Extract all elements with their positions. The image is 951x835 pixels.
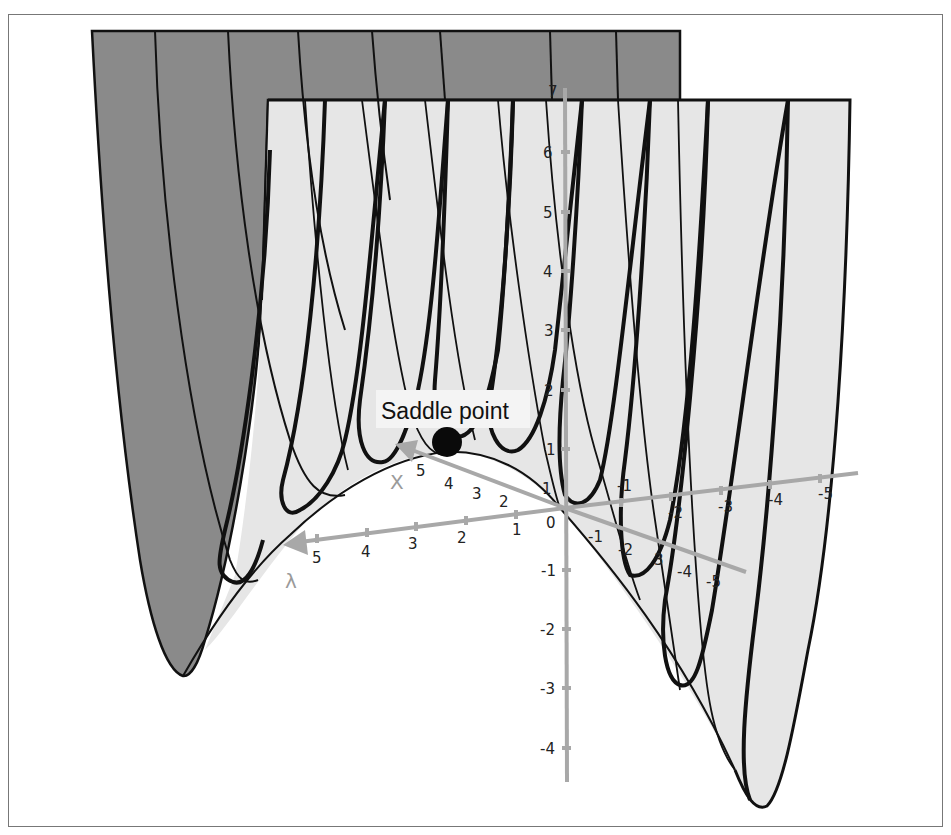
x-tick-neg2: -2 <box>668 504 683 522</box>
saddle-surface-figure: 7 6 5 4 3 2 1 -1 -2 -3 -4 5 4 3 <box>0 0 951 835</box>
v-tick-5: 5 <box>543 204 553 222</box>
lambda-tick-neg5: -5 <box>706 573 721 591</box>
lambda-tick-neg1: -1 <box>588 528 603 546</box>
v-tick-7: 7 <box>548 83 558 101</box>
v-tick-3: 3 <box>544 322 554 340</box>
x-tick-neg3: -3 <box>718 498 733 516</box>
lambda-tick-4: 4 <box>361 543 371 561</box>
v-tick-1: 1 <box>546 441 556 459</box>
x-tick-5: 5 <box>416 462 426 480</box>
lambda-tick-neg3: 3 <box>654 551 664 569</box>
x-tick-neg5: -5 <box>818 485 833 503</box>
lambda-tick-neg2: -2 <box>618 541 633 559</box>
x-tick-4: 4 <box>444 475 454 493</box>
lambda-tick-3: 3 <box>408 535 418 553</box>
v-tick-4: 4 <box>543 263 553 281</box>
v-tick-6: 6 <box>543 144 553 162</box>
surface-plot: 7 6 5 4 3 2 1 -1 -2 -3 -4 5 4 3 <box>0 0 951 835</box>
lambda-tick-neg4: -4 <box>677 563 692 581</box>
x-tick-neg1: -1 <box>617 477 632 495</box>
lambda-tick-1: 1 <box>512 521 522 539</box>
v-tick-neg1: -1 <box>541 562 556 580</box>
lambda-tick-2: 2 <box>457 529 467 547</box>
v-tick-neg3: -3 <box>540 680 555 698</box>
front-panel <box>205 100 850 807</box>
lambda-axis-label: λ <box>285 569 297 593</box>
saddle-point-label: Saddle point <box>381 398 509 424</box>
v-tick-neg2: -2 <box>540 621 555 639</box>
x-tick-1: 1 <box>542 480 552 498</box>
x-tick-3: 3 <box>472 485 482 503</box>
origin-label: 0 <box>546 514 556 532</box>
x-tick-2: 2 <box>499 493 509 511</box>
saddle-point-dot <box>432 427 462 457</box>
x-tick-neg4: -4 <box>768 491 783 509</box>
x-axis-label: X <box>390 470 404 494</box>
lambda-tick-5: 5 <box>312 549 322 567</box>
v-tick-neg4: -4 <box>540 740 555 758</box>
v-tick-2: 2 <box>544 382 554 400</box>
